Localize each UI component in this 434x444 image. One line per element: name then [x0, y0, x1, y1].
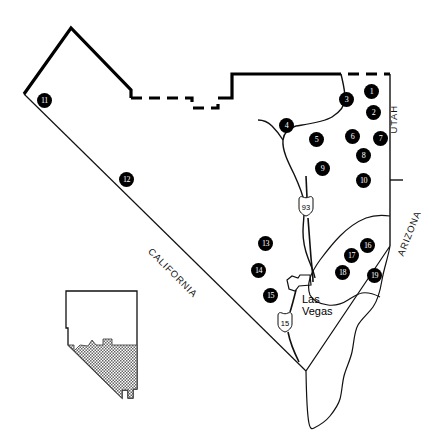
site-marker-17[interactable]: 17 — [344, 248, 359, 263]
site-marker-7[interactable]: 7 — [373, 131, 388, 146]
site-marker-4[interactable]: 4 — [279, 118, 294, 133]
us-93-shield-outline — [299, 197, 313, 216]
site-marker-14[interactable]: 14 — [251, 263, 266, 278]
northern-boundary-solid — [24, 28, 131, 98]
site-marker-5[interactable]: 5 — [309, 132, 324, 147]
site-marker-13[interactable]: 13 — [258, 236, 273, 251]
las-vegas-urban-area — [287, 275, 311, 291]
california-state-line — [24, 94, 306, 371]
site-marker-3[interactable]: 3 — [339, 92, 354, 107]
site-marker-6[interactable]: 6 — [345, 129, 360, 144]
northern-boundary-step — [218, 74, 330, 98]
site-marker-15[interactable]: 15 — [263, 288, 278, 303]
site-marker-1[interactable]: 1 — [364, 84, 379, 99]
map-geometry — [0, 0, 434, 444]
site-marker-9[interactable]: 9 — [315, 161, 330, 176]
site-marker-10[interactable]: 10 — [356, 173, 371, 188]
site-marker-2[interactable]: 2 — [366, 105, 381, 120]
i-15-shield-outline — [278, 313, 292, 332]
site-marker-16[interactable]: 16 — [360, 238, 375, 253]
northern-boundary-dashed — [131, 98, 218, 108]
us-93-route — [306, 176, 313, 282]
site-marker-19[interactable]: 19 — [367, 268, 382, 283]
site-marker-18[interactable]: 18 — [335, 265, 350, 280]
site-marker-8[interactable]: 8 — [356, 148, 371, 163]
map-figure: CALIFORNIA UTAH ARIZONA Las Vegas 93 15 … — [0, 0, 434, 444]
site-marker-11[interactable]: 11 — [37, 93, 52, 108]
site-marker-12[interactable]: 12 — [119, 172, 134, 187]
nevada-inset — [66, 291, 137, 398]
utah-state-line — [390, 74, 403, 246]
